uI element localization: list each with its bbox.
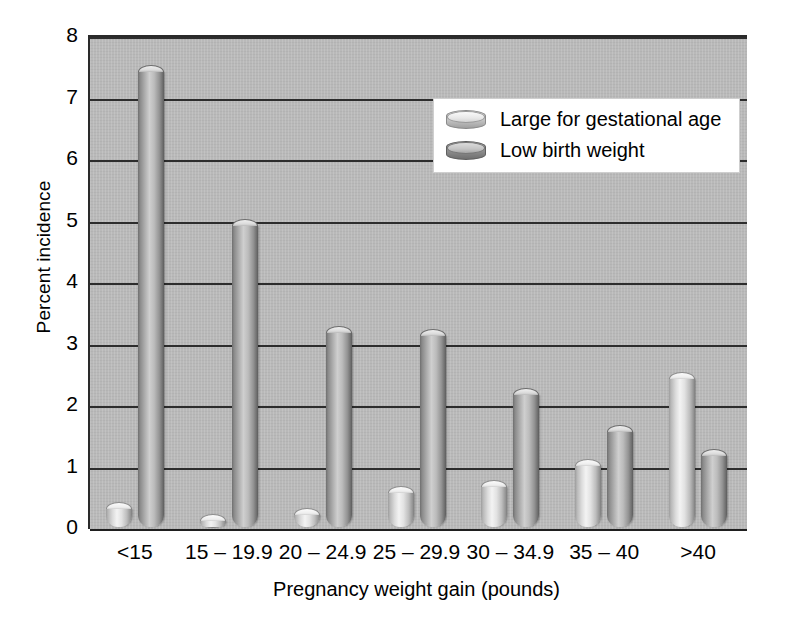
legend-item-label: Low birth weight	[500, 139, 645, 162]
y-axis-tick: 5	[32, 209, 78, 230]
legend-item: Large for gestational age	[434, 104, 739, 135]
gridline	[90, 37, 747, 39]
x-axis-tick-labels: <1515 – 19.920 – 24.925 – 29.930 – 34.93…	[88, 540, 745, 570]
y-axis-tick: 2	[32, 393, 78, 414]
x-axis-tick: 35 – 40	[569, 540, 639, 564]
y-axis-tick: 8	[32, 24, 78, 45]
cylinder-light-icon	[446, 110, 486, 129]
x-axis-tick: 15 – 19.9	[185, 540, 273, 564]
gridline	[90, 468, 747, 470]
chart-legend: Large for gestational age Low birth weig…	[433, 98, 740, 173]
gridline	[90, 345, 747, 347]
y-axis-tick: 1	[32, 455, 78, 476]
chart-figure: Percent incidence 012345678 <1515 – 19.9…	[0, 0, 798, 629]
cylinder-dark-icon	[446, 141, 486, 160]
x-axis-tick: 30 – 34.9	[467, 540, 555, 564]
y-axis-tick: 6	[32, 147, 78, 168]
x-axis-tick: >40	[680, 540, 716, 564]
gridline	[90, 222, 747, 224]
x-axis-tick: 20 – 24.9	[279, 540, 367, 564]
y-axis-tick: 7	[32, 86, 78, 107]
gridline	[90, 529, 747, 531]
gridline	[90, 283, 747, 285]
y-axis-tick: 4	[32, 270, 78, 291]
y-axis-tick: 3	[32, 332, 78, 353]
legend-item-label: Large for gestational age	[500, 108, 721, 131]
x-axis-label: Pregnancy weight gain (pounds)	[88, 578, 745, 601]
legend-item: Low birth weight	[434, 135, 739, 166]
x-axis-tick: <15	[117, 540, 153, 564]
y-axis-tick: 0	[32, 516, 78, 537]
x-axis-tick: 25 – 29.9	[373, 540, 461, 564]
gridline	[90, 406, 747, 408]
